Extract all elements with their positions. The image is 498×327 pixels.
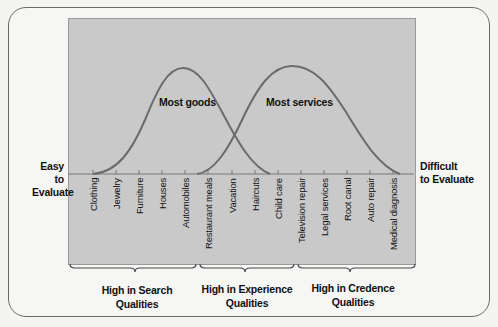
group-experience-line1: High in Experience [192, 282, 302, 296]
group-credence-line1: High in Credence [298, 281, 408, 295]
category-label: Furniture [134, 178, 145, 214]
group-label-search: High in Search Qualities [82, 283, 192, 311]
category-label: Jewelry [111, 178, 122, 209]
group-credence-line2: Qualities [298, 295, 408, 309]
difficult-line2: to Evaluate [420, 173, 474, 186]
category-label: Medical diagnosis [388, 178, 399, 250]
goods-curve [93, 68, 270, 174]
group-experience-line2: Qualities [192, 296, 302, 310]
group-search-line1: High in Search [82, 283, 192, 297]
group-label-experience: High in Experience Qualities [192, 282, 302, 310]
tick-marks [93, 170, 393, 174]
category-label: Houses [157, 178, 168, 209]
category-label: Vacation [227, 178, 238, 213]
category-label: Television repair [296, 178, 307, 243]
category-label: Haircuts [250, 178, 261, 211]
easy-line1: Easy to [32, 160, 64, 186]
category-label: Clothing [88, 178, 99, 211]
goods-curve-label: Most goods [159, 96, 216, 108]
easy-line2: Evaluate [32, 186, 64, 199]
easy-to-evaluate-label: Easy to Evaluate [32, 160, 64, 199]
category-label: Legal services [319, 178, 330, 236]
difficult-to-evaluate-label: Difficult to Evaluate [420, 160, 474, 186]
services-curve-label: Most services [266, 96, 333, 108]
category-label: Auto repair [365, 178, 376, 222]
category-label: Restaurant meals [203, 178, 214, 249]
category-label: Root canal [342, 178, 353, 221]
category-label: Child care [273, 178, 284, 219]
group-search-line2: Qualities [82, 297, 192, 311]
services-curve [197, 66, 400, 174]
category-label: Automobiles [180, 178, 191, 228]
difficult-line1: Difficult [420, 160, 474, 173]
group-braces [70, 264, 415, 272]
group-label-credence: High in Credence Qualities [298, 281, 408, 309]
